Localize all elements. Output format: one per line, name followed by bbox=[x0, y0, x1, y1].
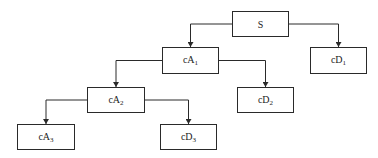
node-label: cD2 bbox=[258, 94, 273, 107]
node-label-subscript: 2 bbox=[120, 99, 124, 107]
node-label-base: cA bbox=[38, 131, 50, 142]
node-ca2: cA2 bbox=[87, 87, 145, 113]
edge-s-to-cd1 bbox=[289, 24, 339, 47]
node-label: S bbox=[258, 19, 264, 30]
node-label: cA2 bbox=[108, 94, 123, 107]
node-cd2: cD2 bbox=[237, 87, 294, 113]
node-label-subscript: 1 bbox=[343, 59, 347, 67]
node-label-base: cD bbox=[181, 131, 193, 142]
edge-ca2-to-ca3 bbox=[46, 100, 87, 124]
node-label-subscript: 1 bbox=[195, 59, 199, 67]
edge-ca1-to-ca2 bbox=[116, 61, 162, 88]
node-label-base: cA bbox=[108, 94, 120, 105]
node-cd3: cD3 bbox=[160, 124, 217, 150]
node-label: cD1 bbox=[331, 54, 346, 67]
node-label-subscript: 3 bbox=[193, 136, 197, 144]
node-label-base: cA bbox=[183, 54, 195, 65]
node-label-base: S bbox=[258, 19, 264, 30]
node-label-base: cD bbox=[331, 54, 343, 65]
edge-ca2-to-cd3 bbox=[145, 100, 189, 124]
node-label-subscript: 3 bbox=[50, 136, 54, 144]
node-ca1: cA1 bbox=[162, 47, 219, 74]
node-label: cA3 bbox=[38, 131, 53, 144]
edge-s-to-ca1 bbox=[191, 24, 233, 47]
node-label-subscript: 2 bbox=[270, 99, 274, 107]
edge-ca1-to-cd2 bbox=[219, 61, 266, 88]
node-label: cD3 bbox=[181, 131, 196, 144]
node-cd1: cD1 bbox=[310, 47, 367, 74]
node-s: S bbox=[232, 11, 289, 37]
node-label: cA1 bbox=[183, 54, 198, 67]
node-ca3: cA3 bbox=[17, 124, 75, 150]
node-label-base: cD bbox=[258, 94, 270, 105]
